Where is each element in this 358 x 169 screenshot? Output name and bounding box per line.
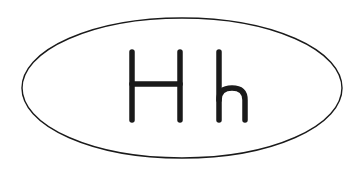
uppercase-h-glyph xyxy=(132,52,180,120)
lowercase-h-glyph xyxy=(219,52,245,120)
ellipse-frame xyxy=(0,0,358,169)
letter-card: Hh xyxy=(0,0,358,169)
